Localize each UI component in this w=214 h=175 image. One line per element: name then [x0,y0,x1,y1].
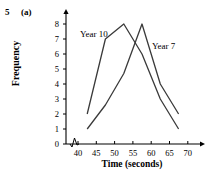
chart-canvas [0,0,214,175]
x-axis-arrow [200,141,205,146]
series-label-year10: Year 10 [80,29,108,39]
series-lines [87,24,178,129]
series-label-year7: Year 7 [152,41,175,51]
frequency-polygon-chart: Frequency Time (seconds) 012345678 40455… [0,0,214,175]
series-line-year10 [87,24,178,129]
figure-root: 5 (a) Frequency Time (seconds) 012345678… [0,0,214,175]
y-axis-arrow [63,9,68,14]
